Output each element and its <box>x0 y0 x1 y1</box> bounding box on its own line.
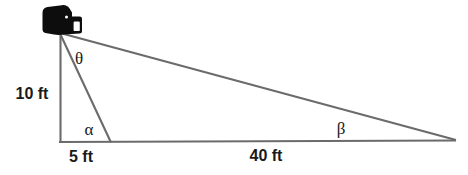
ground-base-line <box>59 141 456 143</box>
diagram-canvas: 10 ft 5 ft 40 ft θ α β <box>0 0 468 175</box>
angle-label-theta: θ <box>75 50 83 67</box>
dimension-label-height: 10 ft <box>16 86 49 102</box>
camera-lens-window <box>74 22 80 32</box>
angle-label-beta: β <box>337 120 346 137</box>
angle-label-alpha: α <box>85 121 94 138</box>
camera-icon <box>43 5 83 35</box>
far-sight-line <box>62 34 456 141</box>
camera-button-dot <box>65 16 68 19</box>
dimension-label-far-base: 40 ft <box>250 148 283 164</box>
dimension-label-near-base: 5 ft <box>69 149 93 165</box>
